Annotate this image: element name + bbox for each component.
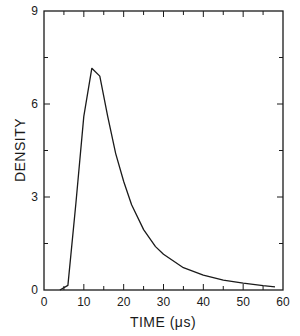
density-time-chart: 01020304050600369 TIME (μs) DENSITY — [0, 0, 300, 336]
x-axis-title: TIME (μs) — [130, 314, 196, 330]
x-tick-label: 10 — [77, 295, 91, 309]
y-axis-title: DENSITY — [12, 118, 28, 182]
y-tick-label: 0 — [31, 283, 38, 297]
x-tick-label: 20 — [117, 295, 131, 309]
axes-box — [44, 11, 283, 290]
y-tick-label: 3 — [31, 190, 38, 204]
y-tick-label: 6 — [31, 97, 38, 111]
x-tick-label: 50 — [236, 295, 250, 309]
y-tick-label: 9 — [31, 4, 38, 18]
plot-frame — [44, 11, 283, 290]
density-curve — [60, 68, 275, 290]
x-tick-label: 30 — [157, 295, 171, 309]
x-tick-label: 40 — [197, 295, 211, 309]
axis-ticks — [44, 11, 283, 290]
x-tick-label: 60 — [276, 295, 290, 309]
x-tick-label: 0 — [41, 295, 48, 309]
